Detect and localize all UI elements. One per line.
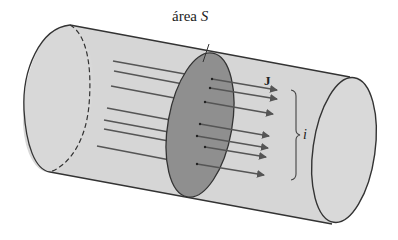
area-symbol: S <box>201 8 209 24</box>
area-word: área <box>172 8 197 24</box>
current-density-label: J <box>264 73 271 89</box>
diagram-canvas <box>0 0 398 240</box>
area-s-label: área S <box>172 8 208 25</box>
conductor-diagram: área S J i <box>0 0 398 240</box>
current-label: i <box>303 127 307 143</box>
